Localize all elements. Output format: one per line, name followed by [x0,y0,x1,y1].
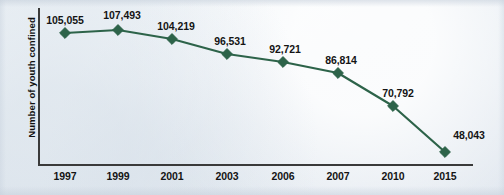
x-tick-label-2001: 2001 [161,170,184,182]
data-point-label: 96,531 [214,35,246,47]
x-tick-label-1999: 1999 [107,170,130,182]
data-point-label: 48,043 [453,129,485,141]
data-point-label: 86,814 [325,54,357,66]
data-point-marker [113,25,124,36]
x-tick-label-1997: 1997 [54,170,77,182]
line-chart-figure: Number of youth confined 105,055107,4931… [0,0,504,195]
data-point-marker [278,57,289,68]
data-point-label: 105,055 [46,14,83,26]
data-point-label: 107,493 [103,9,140,21]
data-point-label: 92,721 [269,43,301,55]
data-point-marker [60,28,71,39]
x-tick-label-2003: 2003 [216,170,239,182]
series-layer [0,0,504,195]
plot-area: Number of youth confined 105,055107,4931… [0,0,504,195]
data-point-marker [333,68,344,79]
data-point-label: 70,792 [382,87,414,99]
x-tick-label-2010: 2010 [382,170,405,182]
x-tick-label-2006: 2006 [272,170,295,182]
data-point-marker [167,34,178,45]
x-tick-label-2015: 2015 [434,170,457,182]
data-point-marker [222,49,233,60]
data-point-label: 104,219 [157,20,194,32]
x-tick-label-2007: 2007 [327,170,350,182]
